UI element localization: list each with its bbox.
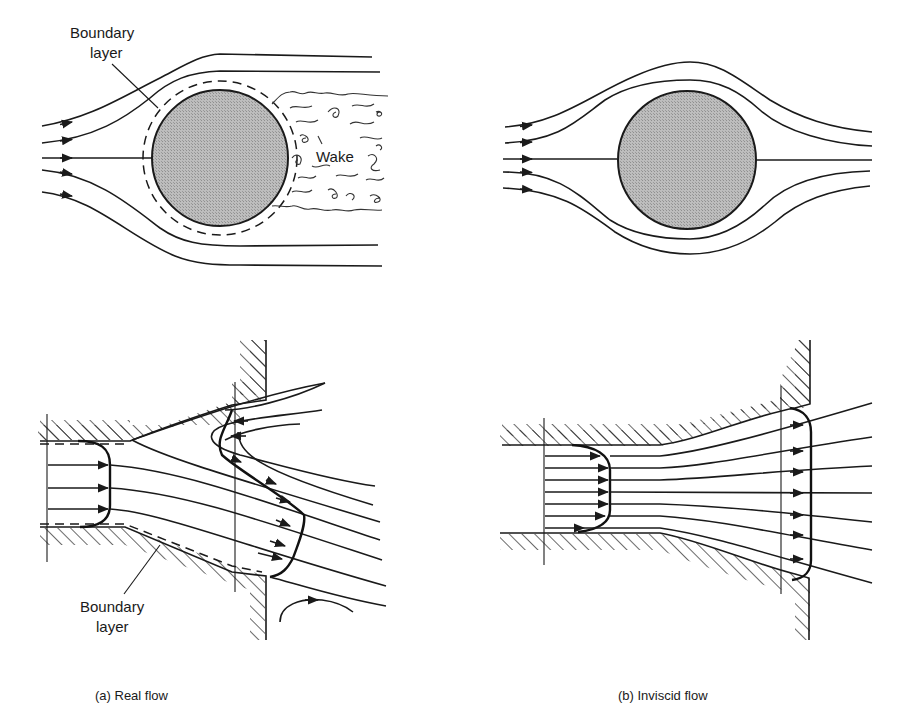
velocity-arrow xyxy=(236,460,241,462)
cylinder-body xyxy=(618,91,756,229)
velocity-profile-outlet xyxy=(790,408,811,580)
upper-wall-hatch xyxy=(502,340,810,445)
caption-inviscid-flow: (b) Inviscid flow xyxy=(618,688,708,703)
upper-wall-hatch xyxy=(500,430,660,446)
streamline xyxy=(110,465,380,540)
boundary-layer-label-top-line2: layer xyxy=(90,44,123,61)
upper-wall-hatch xyxy=(660,388,795,446)
streamline xyxy=(610,492,872,493)
streamline xyxy=(610,504,872,522)
flow-figure: Boundary layer Wake xyxy=(0,0,914,722)
arrow-icon xyxy=(520,189,532,190)
velocito-profile-inlet xyxy=(572,445,610,532)
velocity-profile-inlet xyxy=(78,441,110,527)
wake-boundary-top xyxy=(272,92,388,104)
upper-wall-hatch xyxy=(40,420,130,440)
arrow-icon xyxy=(520,172,532,173)
arrow-icon xyxy=(520,142,532,143)
velocity-arrow xyxy=(266,480,276,484)
streamline xyxy=(225,424,300,440)
panel-a-channel-flow: Boundary layer xyxy=(38,340,386,640)
boundary-layer-label-bottom-line2: layer xyxy=(96,618,129,635)
inlet-velocity-arrows xyxy=(545,456,608,528)
boundary-layer-leader-bottom xyxy=(124,545,160,594)
wake-label: Wake xyxy=(316,148,354,165)
panel-b-cylinder-flow xyxy=(503,62,872,254)
panel-a-cylinder-flow: Boundary layer Wake xyxy=(42,24,388,266)
boundary-layer-leader-top xyxy=(112,64,158,108)
velocity-arrow xyxy=(270,541,285,546)
caption-real-flow: (a) Real flow xyxy=(95,688,169,703)
streamline xyxy=(238,432,373,505)
wake-boundary-bottom xyxy=(272,206,382,211)
boundary-layer-label-top: Boundary xyxy=(70,24,135,41)
velocity-arrow xyxy=(276,520,290,526)
upper-wall-hatch xyxy=(250,340,266,400)
velocity-profile-outlet xyxy=(220,410,305,577)
lower-wall-hatch xyxy=(500,534,810,640)
recirculation-arrow xyxy=(280,600,353,622)
boundary-layer-label-bottom: Boundary xyxy=(80,598,145,615)
lower-wall-hatch xyxy=(40,528,265,640)
upper-wall-hatch xyxy=(795,340,810,408)
panel-b-channel-flow xyxy=(500,340,872,640)
cylinder-body xyxy=(152,90,288,226)
